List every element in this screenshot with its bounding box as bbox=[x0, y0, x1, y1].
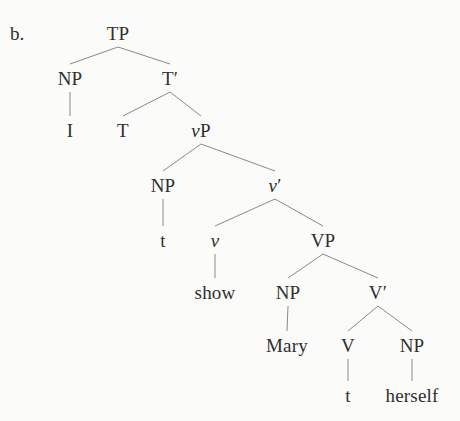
tree-node-vbar: V′ bbox=[369, 283, 387, 302]
tree-node-np3: NP bbox=[276, 283, 301, 302]
tree-node-np1: NP bbox=[58, 69, 83, 88]
tree-node-i: I bbox=[67, 121, 74, 140]
tree-node-t1: t bbox=[160, 231, 165, 250]
tree-edge-vbar-to-np4 bbox=[378, 306, 412, 331]
tree-node-t: T bbox=[117, 121, 129, 140]
tree-node-herself: herself bbox=[385, 386, 438, 405]
tree-node-vbar: v′ bbox=[269, 176, 282, 195]
tree-node-v: v bbox=[211, 231, 220, 250]
tree-edge-vp-to-np2 bbox=[163, 144, 201, 171]
tree-edge-tp-to-np1 bbox=[70, 47, 118, 64]
tree-branches bbox=[0, 0, 460, 421]
tree-edge-vp-to-np3 bbox=[288, 254, 323, 278]
tree-edge-tbar-to-t bbox=[123, 92, 170, 116]
figure-canvas: b. TPNPT′ITvPNPv′tvVPshowNPV′MaryVNPther… bbox=[0, 0, 460, 421]
tree-edge-tbar-to-vp bbox=[170, 92, 201, 116]
tree-edge-vbar-to-vp bbox=[275, 199, 323, 226]
tree-edge-tp-to-tbar bbox=[118, 47, 170, 64]
tree-node-vp: vP bbox=[191, 121, 210, 140]
tree-node-v: V bbox=[341, 336, 355, 355]
tree-node-tbar: T′ bbox=[162, 69, 178, 88]
edge-layer bbox=[70, 47, 412, 381]
tree-node-tp: TP bbox=[107, 24, 130, 43]
tree-edge-vp-to-vbar bbox=[323, 254, 378, 278]
tree-node-show: show bbox=[195, 283, 236, 302]
tree-edge-vbar-to-v bbox=[215, 199, 275, 226]
tree-edge-vbar-to-v bbox=[348, 306, 378, 331]
tree-node-np4: NP bbox=[400, 336, 425, 355]
tree-node-np2: NP bbox=[151, 176, 176, 195]
tree-node-vp: VP bbox=[311, 231, 336, 250]
tree-edge-vp-to-vbar bbox=[201, 144, 275, 171]
tree-edge-np3-to-mary bbox=[287, 306, 288, 331]
tree-node-t2: t bbox=[345, 386, 350, 405]
tree-node-mary: Mary bbox=[266, 336, 308, 355]
figure-item-label: b. bbox=[10, 24, 24, 43]
